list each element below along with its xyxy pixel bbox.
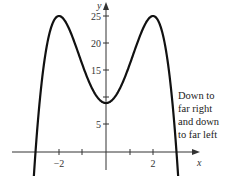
annotation-line-4: to far left — [178, 128, 227, 141]
y-tick-label-15: 15 — [91, 65, 101, 76]
annotation-line-2: far right — [178, 102, 227, 115]
annotation-line-3: and down — [178, 115, 227, 128]
chart-canvas: −2 2 25 20 15 5 y x — [0, 0, 227, 176]
x-tick-label-2: 2 — [151, 158, 156, 169]
y-axis-arrow-icon — [103, 2, 109, 10]
end-behavior-annotation: Down to far right and down to far left — [178, 89, 227, 141]
x-axis-arrow-icon — [192, 149, 200, 155]
y-tick-label-5: 5 — [96, 119, 101, 130]
y-tick-label-25: 25 — [91, 11, 101, 22]
x-axis-label: x — [196, 157, 202, 168]
x-tick-label-minus2: −2 — [54, 158, 65, 169]
y-axis-label: y — [96, 0, 102, 11]
y-tick-label-20: 20 — [91, 38, 101, 49]
annotation-line-1: Down to — [178, 89, 227, 102]
